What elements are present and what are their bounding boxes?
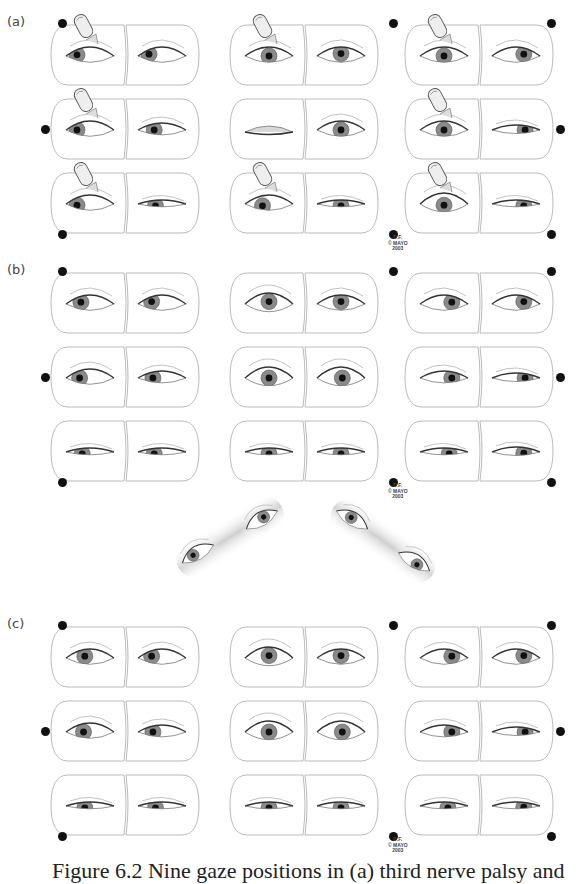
figure-caption: Figure 6.2 Nine gaze positions in (a) th… <box>52 858 565 884</box>
